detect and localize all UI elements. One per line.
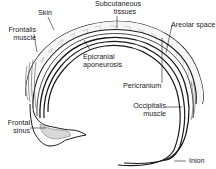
label-skin: Skin: [38, 9, 52, 17]
label-skin-text: Skin: [38, 9, 52, 17]
label-frontalis-muscle: Frontalis muscle: [2, 26, 36, 42]
scalp-layers-diagram: Skin Subcutaneous tissues Frontalis musc…: [0, 0, 216, 169]
label-occipitalis-muscle: Occipitalis muscle: [128, 102, 166, 118]
label-frontal-sinus-line2: sinus: [0, 127, 30, 135]
skin-leader: [48, 17, 54, 30]
label-occipitalis-line2: muscle: [128, 110, 166, 118]
label-pericranium-text: Pericranium: [123, 82, 161, 90]
label-subcutaneous-line2: tissues: [95, 8, 141, 16]
occipital-curve: [124, 134, 186, 164]
label-epicranial-line2: aponeurosis: [83, 61, 122, 69]
label-frontal-sinus: Frontal sinus: [0, 119, 30, 135]
label-frontalis-line2: muscle: [2, 34, 36, 42]
label-epicranial-aponeurosis: Epicranial aponeurosis: [83, 53, 122, 69]
forehead-outline: [30, 104, 86, 146]
label-areolar-space: Areolar space: [171, 21, 215, 29]
label-inion-text: Inion: [189, 157, 205, 165]
label-areolar-text: Areolar space: [171, 21, 215, 29]
label-pericranium: Pericranium: [123, 82, 161, 90]
label-inion: Inion: [189, 157, 205, 165]
label-subcutaneous-tissues: Subcutaneous tissues: [95, 0, 141, 16]
